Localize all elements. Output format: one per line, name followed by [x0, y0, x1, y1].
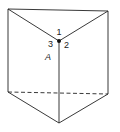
top-edge-left [8, 9, 59, 41]
bottom-edge-hidden [8, 92, 108, 94]
top-edge-back [8, 9, 108, 11]
prism-diagram: 1 3 2 A [0, 0, 120, 132]
vertex-dot [57, 39, 61, 43]
label-2: 2 [64, 40, 69, 50]
bottom-edge-left [8, 92, 59, 123]
label-A: A [44, 52, 51, 62]
bottom-edge-right [59, 94, 108, 123]
label-1: 1 [57, 27, 62, 37]
top-edge-right [59, 11, 108, 41]
label-3: 3 [48, 39, 53, 49]
